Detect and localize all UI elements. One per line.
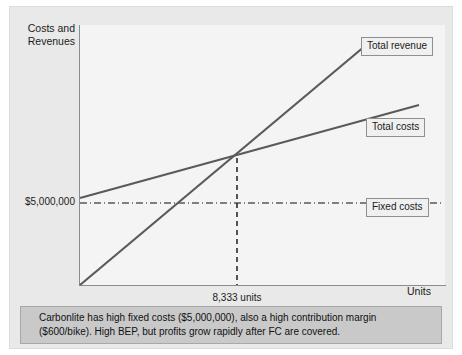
break-even-chart-figure: Costs and Revenues Units $5,000,000 8,33… [0, 0, 462, 355]
chart-region: Costs and Revenues Units $5,000,000 8,33… [9, 6, 453, 298]
figure-plate: Costs and Revenues Units $5,000,000 8,33… [9, 6, 453, 349]
callout-total-revenue: Total revenue [361, 37, 433, 56]
caption-text: Carbonlite has high fixed costs ($5,000,… [21, 311, 441, 339]
total-revenue-line [80, 46, 365, 285]
callout-fixed-costs: Fixed costs [366, 198, 429, 217]
caption-box: Carbonlite has high fixed costs ($5,000,… [20, 306, 442, 344]
callout-total-costs: Total costs [366, 118, 425, 137]
